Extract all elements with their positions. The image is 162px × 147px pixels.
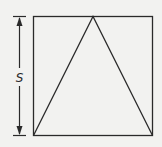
figure-canvas: S <box>0 0 162 147</box>
triangle <box>34 17 153 136</box>
square <box>34 17 153 136</box>
dimension-label: S <box>16 71 24 85</box>
arrow-down-icon <box>17 126 23 135</box>
arrow-up-icon <box>17 17 23 26</box>
